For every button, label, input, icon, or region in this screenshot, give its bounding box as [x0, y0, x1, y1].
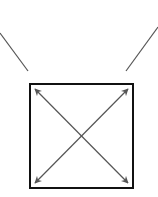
right-slant-line [126, 27, 158, 71]
left-slant-line [0, 33, 28, 71]
diagram-canvas [0, 0, 158, 197]
